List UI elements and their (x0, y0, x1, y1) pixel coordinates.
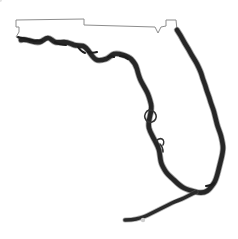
florida-map-canvas: Black and white outline map of the state… (0, 0, 238, 239)
florida-outline-svg (0, 0, 238, 239)
scan-artifact-left-edge (141, 218, 145, 222)
map-background (0, 0, 238, 239)
